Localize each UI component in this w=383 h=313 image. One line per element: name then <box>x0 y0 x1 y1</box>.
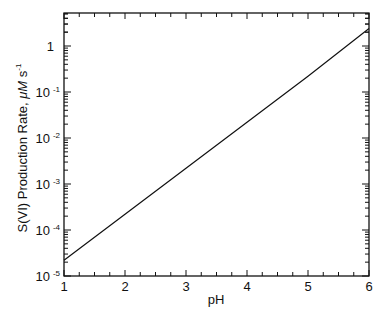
y-tick-label: 10-2 <box>35 131 60 146</box>
y-tick-label: 1 <box>47 39 54 54</box>
y-axis-tick-labels: 10-510-410-310-210-11 <box>35 39 60 284</box>
y-tick-label: 10-4 <box>35 223 60 238</box>
y-tick-label: 10-3 <box>35 177 60 192</box>
x-tick-label: 5 <box>304 279 311 294</box>
data-line <box>64 29 369 261</box>
x-tick-label: 3 <box>182 279 189 294</box>
y-axis-title: S(VI) Production Rate, μM s-1 <box>14 63 30 232</box>
y-tick-label: 10-5 <box>35 269 60 284</box>
x-tick-label: 4 <box>243 279 250 294</box>
x-tick-label: 6 <box>365 279 372 294</box>
x-axis-title: pH <box>208 292 225 307</box>
x-tick-label: 2 <box>121 279 128 294</box>
chart-svg: 123456 10-510-410-310-210-11 pH S(VI) Pr… <box>0 0 383 313</box>
x-tick-label: 1 <box>60 279 67 294</box>
y-tick-label: 10-1 <box>35 85 60 100</box>
